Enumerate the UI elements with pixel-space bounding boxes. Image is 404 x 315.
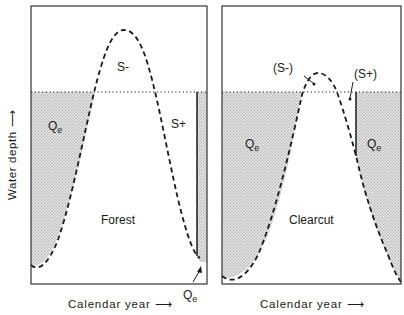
clearcut-x-axis-label: Calendar year ⟶ bbox=[260, 298, 364, 310]
y-axis-label: Water depth ⟶ bbox=[6, 110, 18, 200]
clearcut-panel: (S-) (S+) Qe Qe Clearcut Calendar year ⟶ bbox=[222, 6, 401, 310]
clearcut-excess-right-area bbox=[356, 92, 401, 282]
forest-excess-left-area bbox=[31, 92, 95, 266]
forest-deficit-label: S- bbox=[117, 60, 129, 74]
forest-surplus-label: S+ bbox=[171, 117, 186, 131]
forest-excess-right-area bbox=[197, 92, 207, 262]
clearcut-surplus-arrowhead bbox=[349, 98, 352, 101]
clearcut-excess-left-area bbox=[222, 92, 302, 278]
water-balance-diagram: S- S+ Qe Forest Qe Calendar year ⟶ (S-) … bbox=[0, 0, 404, 315]
clearcut-deficit-arrow bbox=[304, 76, 313, 83]
clearcut-surplus-arrow bbox=[350, 82, 353, 98]
forest-qe-arrowhead bbox=[197, 266, 202, 273]
forest-x-axis-label: Calendar year ⟶ bbox=[68, 298, 172, 310]
clearcut-title: Clearcut bbox=[289, 213, 334, 227]
forest-title: Forest bbox=[101, 213, 136, 227]
clearcut-deficit-arrowhead bbox=[313, 83, 316, 86]
forest-panel: S- S+ Qe Forest Qe Calendar year ⟶ bbox=[31, 6, 207, 310]
clearcut-surplus-label: (S+) bbox=[354, 67, 377, 81]
clearcut-deficit-label: (S-) bbox=[273, 61, 293, 75]
forest-excess-right-label: Qe bbox=[183, 288, 197, 304]
